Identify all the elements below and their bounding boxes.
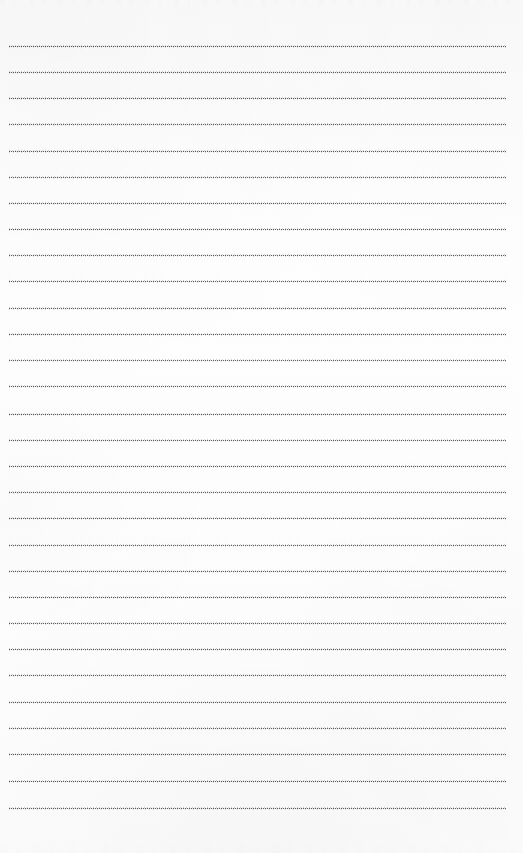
rule-line-27 bbox=[9, 727, 506, 730]
rule-line-3 bbox=[9, 97, 506, 100]
rule-line-halo-bottom bbox=[9, 178, 506, 179]
rule-line-5 bbox=[9, 150, 506, 153]
rule-line-halo-bottom bbox=[9, 703, 506, 704]
rule-line-halo-bottom bbox=[9, 519, 506, 520]
rule-line-halo-bottom bbox=[9, 415, 506, 416]
rule-line-halo-bottom bbox=[9, 47, 506, 48]
rule-line-15 bbox=[9, 413, 506, 416]
rule-line-29 bbox=[9, 780, 506, 783]
rule-line-4 bbox=[9, 123, 506, 126]
rule-line-halo-bottom bbox=[9, 650, 506, 651]
rule-line-halo-bottom bbox=[9, 125, 506, 126]
rule-line-20 bbox=[9, 544, 506, 547]
rule-line-halo-bottom bbox=[9, 572, 506, 573]
rule-line-halo-bottom bbox=[9, 256, 506, 257]
rule-line-1 bbox=[9, 45, 506, 48]
rule-line-halo-bottom bbox=[9, 282, 506, 283]
rule-line-8 bbox=[9, 228, 506, 231]
rule-line-halo-bottom bbox=[9, 387, 506, 388]
rule-line-19 bbox=[9, 517, 506, 520]
rule-line-halo-bottom bbox=[9, 729, 506, 730]
rule-line-halo-bottom bbox=[9, 676, 506, 677]
rule-line-halo-bottom bbox=[9, 441, 506, 442]
rule-line-halo-bottom bbox=[9, 755, 506, 756]
rule-line-halo-bottom bbox=[9, 335, 506, 336]
rule-line-17 bbox=[9, 465, 506, 468]
rule-line-7 bbox=[9, 202, 506, 205]
rule-line-12 bbox=[9, 333, 506, 336]
rule-line-halo-bottom bbox=[9, 782, 506, 783]
rule-line-25 bbox=[9, 674, 506, 677]
rule-line-halo-bottom bbox=[9, 152, 506, 153]
rule-line-10 bbox=[9, 280, 506, 283]
rule-line-halo-bottom bbox=[9, 493, 506, 494]
rule-line-halo-bottom bbox=[9, 361, 506, 362]
rule-line-30 bbox=[9, 807, 506, 810]
ruled-lines-group bbox=[0, 0, 523, 853]
rule-line-11 bbox=[9, 307, 506, 310]
rule-line-halo-bottom bbox=[9, 99, 506, 100]
rule-line-22 bbox=[9, 596, 506, 599]
rule-line-halo-bottom bbox=[9, 204, 506, 205]
rule-line-23 bbox=[9, 622, 506, 625]
rule-line-14 bbox=[9, 385, 506, 388]
rule-line-24 bbox=[9, 648, 506, 651]
rule-line-halo-bottom bbox=[9, 809, 506, 810]
rule-line-26 bbox=[9, 701, 506, 704]
rule-line-halo-bottom bbox=[9, 467, 506, 468]
rule-line-halo-bottom bbox=[9, 624, 506, 625]
rule-line-halo-bottom bbox=[9, 73, 506, 74]
rule-line-21 bbox=[9, 570, 506, 573]
scanned-page bbox=[0, 0, 523, 853]
rule-line-2 bbox=[9, 71, 506, 74]
rule-line-16 bbox=[9, 439, 506, 442]
rule-line-18 bbox=[9, 491, 506, 494]
rule-line-13 bbox=[9, 359, 506, 362]
rule-line-halo-bottom bbox=[9, 598, 506, 599]
rule-line-6 bbox=[9, 176, 506, 179]
rule-line-28 bbox=[9, 753, 506, 756]
rule-line-halo-bottom bbox=[9, 546, 506, 547]
rule-line-9 bbox=[9, 254, 506, 257]
rule-line-halo-bottom bbox=[9, 230, 506, 231]
rule-line-halo-bottom bbox=[9, 309, 506, 310]
